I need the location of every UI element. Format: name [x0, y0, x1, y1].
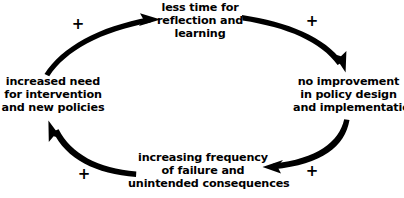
node-right-line-3: and implementation — [293, 102, 404, 115]
node-left-line-3: and new policies — [1, 102, 105, 115]
node-bottom-line-3: unintended consequences — [128, 178, 278, 191]
node-bottom-line-1: increasing frequency — [128, 152, 278, 165]
causal-loop-diagram: less time for reflection and learning no… — [0, 0, 404, 198]
polarity-marker-top-to-right: + — [305, 14, 319, 29]
polarity-marker-right-to-bottom: + — [305, 164, 319, 179]
node-top-line-3: learning — [141, 28, 259, 41]
node-no-improvement-in-policy: no improvement in policy design and impl… — [293, 76, 404, 114]
node-bottom-line-2: of failure and — [128, 165, 278, 178]
polarity-marker-left-to-top: + — [71, 17, 85, 32]
node-increasing-frequency-of-failure: increasing frequency of failure and unin… — [128, 152, 278, 190]
node-left-line-2: for intervention — [1, 89, 105, 102]
node-top-line-1: less time for — [141, 2, 259, 15]
node-less-time-for-reflection: less time for reflection and learning — [141, 2, 259, 40]
polarity-marker-bottom-to-left: + — [77, 167, 91, 182]
link-bottom-to-left — [48, 121, 136, 178]
node-left-line-1: increased need — [1, 76, 105, 89]
node-right-line-1: no improvement — [293, 76, 404, 89]
node-increased-need-for-intervention: increased need for intervention and new … — [1, 76, 105, 114]
link-left-to-top-curve — [45, 17, 151, 76]
link-bottom-to-left-curve — [53, 129, 136, 177]
node-top-line-2: reflection and — [141, 15, 259, 28]
node-right-line-2: in policy design — [293, 89, 404, 102]
